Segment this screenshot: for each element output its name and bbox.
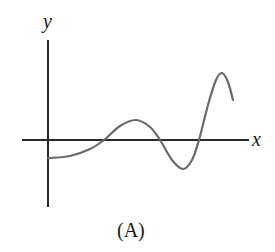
function-curve bbox=[48, 73, 233, 169]
y-axis-label: y bbox=[43, 10, 52, 33]
figure-caption: (A) bbox=[117, 219, 145, 242]
function-graph: y x (A) bbox=[0, 0, 275, 252]
graph-canvas bbox=[0, 0, 275, 252]
x-axis-label: x bbox=[252, 128, 261, 151]
